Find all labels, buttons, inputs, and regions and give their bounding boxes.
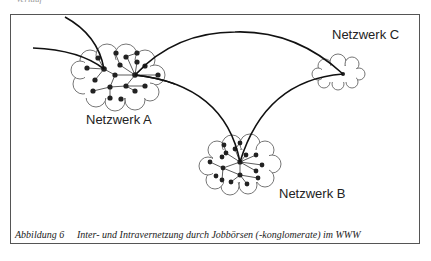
cloud-network-c (312, 54, 365, 90)
label-network-a: Netzwerk A (86, 112, 152, 127)
link-a-to-c (135, 32, 343, 75)
figure-caption-text: Inter- und Intravernetzung durch Jobbörs… (77, 229, 361, 240)
label-network-c: Netzwerk C (332, 27, 399, 42)
label-network-b: Netzwerk B (279, 186, 345, 201)
figure-caption: Abbildung 6Inter- und Intravernetzung du… (15, 229, 361, 240)
figure-number: Abbildung 6 (15, 229, 77, 240)
